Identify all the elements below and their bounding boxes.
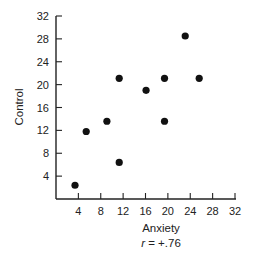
correlation-value: = +.76 xyxy=(145,237,181,249)
y-tick-label: 24 xyxy=(37,56,49,68)
y-tick-label: 28 xyxy=(37,33,49,45)
y-tick-label: 20 xyxy=(37,79,49,91)
x-axis-ticks: 48121620242832 xyxy=(75,193,241,217)
data-point xyxy=(103,118,110,125)
x-tick-label: 8 xyxy=(98,205,104,217)
y-axis-title: Control xyxy=(13,88,25,125)
y-tick-label: 4 xyxy=(43,170,49,182)
data-point xyxy=(161,118,168,125)
y-tick-label: 16 xyxy=(37,102,49,114)
data-points xyxy=(71,32,202,188)
y-tick-label: 12 xyxy=(37,124,49,136)
y-tick-label: 8 xyxy=(43,147,49,159)
data-point xyxy=(161,75,168,82)
data-point xyxy=(182,32,189,39)
data-point xyxy=(83,128,90,135)
data-point xyxy=(196,75,203,82)
x-axis: 48121620242832 xyxy=(56,193,241,217)
x-tick-label: 4 xyxy=(75,205,81,217)
correlation-annotation: r = +.76 xyxy=(141,237,181,249)
y-tick-label: 32 xyxy=(37,10,49,22)
x-tick-label: 28 xyxy=(207,205,219,217)
y-axis-ticks: 48121620242832 xyxy=(37,10,62,182)
data-point xyxy=(116,159,123,166)
scatter-chart: 48121620242832 48121620242832 Control An… xyxy=(0,0,258,260)
x-tick-label: 16 xyxy=(139,205,151,217)
data-point xyxy=(142,87,149,94)
x-tick-label: 20 xyxy=(162,205,174,217)
x-tick-label: 24 xyxy=(184,205,196,217)
x-axis-title: Anxiety xyxy=(142,222,180,234)
y-axis: 48121620242832 xyxy=(37,10,62,199)
data-point xyxy=(71,182,78,189)
x-tick-label: 12 xyxy=(117,205,129,217)
data-point xyxy=(116,75,123,82)
x-tick-label: 32 xyxy=(229,205,241,217)
